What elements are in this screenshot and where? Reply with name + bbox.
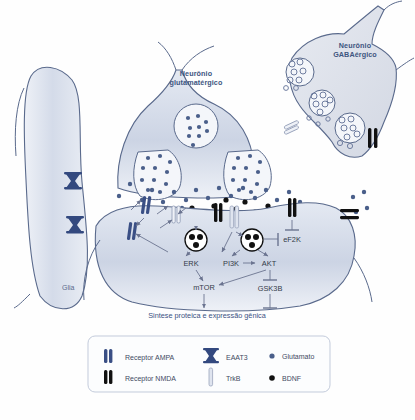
pathway-node-gsk3b: GSK3B [258, 284, 283, 293]
postsynaptic-neuron [84, 203, 372, 311]
pathway-node-akt: AKT [262, 259, 277, 268]
bdnf-vesicle-left [185, 229, 207, 251]
gabaergic-neuron: Neurônio GABAérgico [286, 1, 414, 157]
legend-label-bdnf: BDNF [282, 375, 301, 382]
pathway-node-erk: ERK [183, 259, 198, 268]
legend-label-ampa: Receptor AMPA [125, 354, 175, 362]
pathway-node-pi3k: PI3K [223, 259, 239, 268]
legend-label-nmda: Receptor NMDA [125, 375, 176, 383]
legend-label-glutamato: Glutamato [282, 353, 314, 360]
pathway-output-label: Sintese proteica e expressão gênica [148, 311, 267, 320]
pathway-node-ef2k: eF2K [283, 235, 301, 244]
glutamatergic-neuron-label-line2: glutamatérgico [170, 78, 223, 87]
glutamatergic-presynaptic-terminal: Neurônio glutamatérgico [118, 42, 272, 200]
gaba-receptor-on-terminal [284, 120, 299, 134]
pathway-diagram: Glia Neurônio glutamatérgico [0, 0, 415, 420]
legend-label-eaat3: EAAT3 [226, 354, 248, 361]
glutamate-dot-icon [269, 353, 274, 358]
trkb-icon [209, 368, 213, 386]
legend-label-trkb: TrkB [226, 375, 241, 382]
glia-label: Glia [62, 284, 75, 291]
gabaergic-neuron-label-line2: GABAérgico [333, 50, 377, 59]
gabaergic-neuron-label-line1: Neurônio [339, 41, 372, 50]
bdnf-dot-icon [269, 375, 275, 381]
figure-canvas: Glia Neurônio glutamatérgico [0, 0, 415, 420]
pathway-node-mtor: mTOR [193, 283, 215, 292]
glutamatergic-neuron-label-line1: Neurônio [180, 69, 213, 78]
bdnf-vesicle-right [241, 229, 263, 251]
